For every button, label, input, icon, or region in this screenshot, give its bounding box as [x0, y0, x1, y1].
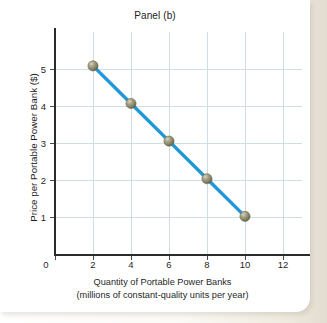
x-tick-label: 2 — [90, 259, 95, 270]
y-axis-spine — [54, 28, 56, 256]
y-tick-mark — [50, 217, 54, 218]
y-tick-mark — [50, 106, 54, 107]
x-tick-label: 8 — [204, 259, 209, 270]
y-tick-mark — [50, 69, 54, 70]
x-tick-label: 0 — [43, 259, 48, 270]
x-tick-label: 12 — [278, 259, 289, 270]
y-axis-label: Price per Portable Power Bank ($) — [28, 48, 39, 248]
figure-card: Panel (b) 0 2 4 6 8 10 12 1 2 3 4 5 Quan… — [0, 0, 310, 312]
x-axis-label-line2: (millions of constant-quality units per … — [20, 289, 305, 302]
gridline-horizontal — [55, 106, 302, 107]
gridline-horizontal — [55, 143, 302, 144]
x-tick-label: 10 — [240, 259, 251, 270]
y-tick-mark — [50, 180, 54, 181]
x-tick-label: 6 — [166, 259, 171, 270]
x-axis-label-line1: Quantity of Portable Power Banks — [20, 276, 305, 289]
chart-title: Panel (b) — [0, 10, 310, 21]
gridline-horizontal — [55, 69, 302, 70]
plot-area — [55, 32, 302, 254]
x-tick-label: 4 — [128, 259, 133, 270]
x-tick-mark — [55, 256, 56, 260]
x-axis-label: Quantity of Portable Power Banks (millio… — [20, 276, 305, 301]
gridline-horizontal — [55, 217, 302, 218]
y-tick-mark — [50, 143, 54, 144]
gridline-horizontal — [55, 180, 302, 181]
